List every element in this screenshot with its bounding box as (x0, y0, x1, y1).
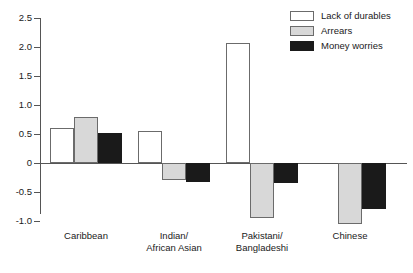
bar (274, 163, 298, 183)
y-axis-tick-label: 1.5 (0, 71, 32, 81)
bar (250, 163, 274, 218)
x-axis-category-label: Chinese (295, 230, 405, 242)
bar (226, 43, 250, 163)
y-axis-tick-label: -1.0 (0, 216, 32, 226)
y-axis-tick-label: 2.5 (0, 13, 32, 23)
bar (162, 163, 186, 180)
y-axis-tick-label: 1.0 (0, 100, 32, 110)
legend-item-lack-of-durables: Lack of durables (290, 9, 391, 22)
legend-swatch-icon-arrears (290, 26, 314, 36)
bar (138, 131, 162, 163)
legend-item-arrears: Arrears (290, 24, 391, 37)
y-axis-tick-label: 0 (0, 158, 32, 168)
legend-label: Lack of durables (321, 10, 391, 21)
legend: Lack of durables Arrears Money worries (290, 9, 391, 54)
legend-swatch-icon-lack-of-durables (290, 11, 314, 21)
legend-label: Money worries (321, 40, 383, 51)
y-axis-tick-label: -0.5 (0, 187, 32, 197)
bar-chart: 2.52.01.51.00.50-0.5-1.0 CaribbeanIndian… (0, 0, 413, 273)
legend-item-money-worries: Money worries (290, 39, 391, 52)
bar (186, 163, 210, 182)
y-axis-tick (34, 221, 40, 222)
legend-swatch-icon-money-worries (290, 41, 314, 51)
bar (338, 163, 362, 224)
bar (74, 117, 98, 163)
bar (362, 163, 386, 209)
bar (98, 133, 122, 163)
y-axis-tick-label: 2.0 (0, 42, 32, 52)
bar (50, 128, 74, 163)
y-axis-tick-label: 0.5 (0, 129, 32, 139)
legend-label: Arrears (321, 25, 352, 36)
